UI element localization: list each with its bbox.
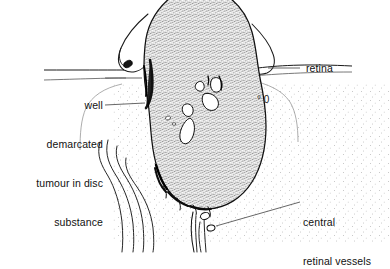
leader-line-vessels xyxy=(216,202,300,226)
vessels-label-line-2: retinal vessels xyxy=(303,255,390,268)
tumour-label-line-1: well xyxy=(0,99,103,112)
tumour-label: well demarcated tumour in disc substance xyxy=(0,73,103,255)
tumour-label-line-4: substance xyxy=(0,216,103,229)
central-retinal-vessels-label: central retinal vessels xyxy=(303,190,390,269)
tumour-label-line-3: tumour in disc xyxy=(0,177,103,190)
vitreous-mark: ° 0 xyxy=(257,94,269,105)
vessels-label-line-1: central xyxy=(303,216,390,229)
retina-label: retina xyxy=(306,62,390,75)
tumour-label-line-2: demarcated xyxy=(0,138,103,151)
leader-line-tumour-lower xyxy=(105,103,145,105)
